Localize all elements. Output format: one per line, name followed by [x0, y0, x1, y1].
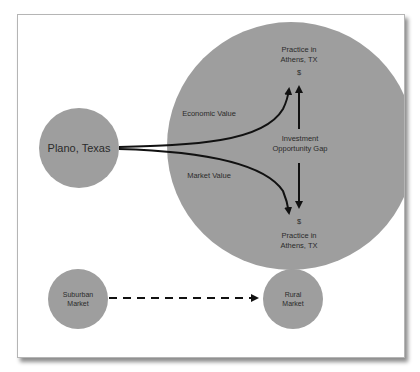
suburban-market-circle — [48, 269, 108, 329]
rural-label-line1: Rural — [285, 291, 302, 298]
athens-bottom-label-line2: Athens, TX — [281, 241, 318, 250]
athens-top-label-line2: Athens, TX — [281, 55, 318, 64]
suburban-label-line1: Suburban — [63, 291, 93, 298]
rural-label-line2: Market — [282, 300, 303, 307]
diagram-canvas: Plano, Texas Practice in Athens, TX $ $ … — [18, 15, 404, 357]
market-value-label: Market Value — [187, 171, 231, 180]
figure-frame: Plano, Texas Practice in Athens, TX $ $ … — [17, 14, 405, 358]
athens-bottom-label-line1: Practice in — [281, 231, 316, 240]
economic-value-label: Economic Value — [182, 109, 236, 118]
gap-label-line1: Investment — [282, 134, 320, 143]
gap-label-line2: Opportunity Gap — [272, 144, 327, 153]
plano-label: Plano, Texas — [48, 142, 111, 154]
suburban-label-line2: Market — [67, 300, 88, 307]
athens-top-label-line1: Practice in — [281, 45, 316, 54]
rural-market-circle — [263, 269, 323, 329]
